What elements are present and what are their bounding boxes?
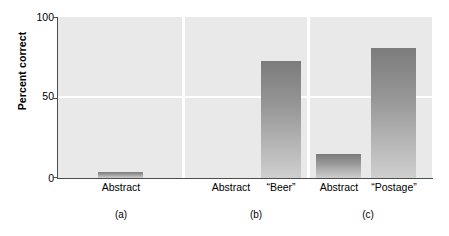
x-tick-c-postage: “Postage” xyxy=(371,181,417,193)
y-tick-label-100: 100 xyxy=(24,12,54,23)
y-tick-mark-100 xyxy=(53,17,57,18)
plot-area xyxy=(58,17,432,178)
panel-divider-a-b xyxy=(182,17,185,178)
bar-c-abstract xyxy=(316,154,361,178)
x-axis-line xyxy=(57,178,433,179)
bar-a-abstract xyxy=(98,172,143,178)
panel-divider-b-c xyxy=(307,17,310,178)
y-axis-tick-labels: 100 50 0 xyxy=(20,0,54,236)
x-axis-tick-labels: Abstract Abstract “Beer” Abstract “Posta… xyxy=(0,181,449,199)
bar-chart-figure: Percent correct 100 50 0 Abstract Abstra… xyxy=(0,0,449,236)
panel-caption-b: (b) xyxy=(250,209,262,220)
y-tick-mark-50 xyxy=(53,98,57,99)
x-tick-b-abstract: Abstract xyxy=(212,181,251,193)
panel-caption-c: (c) xyxy=(362,209,374,220)
x-tick-b-beer: “Beer” xyxy=(266,181,295,193)
bar-c-postage xyxy=(371,48,416,178)
panel-caption-a: (a) xyxy=(115,209,127,220)
bar-b-beer xyxy=(261,61,301,179)
panel-captions: (a) (b) (c) xyxy=(0,209,449,225)
y-tick-label-50: 50 xyxy=(24,91,54,102)
x-tick-a-abstract: Abstract xyxy=(102,181,141,193)
x-tick-c-abstract: Abstract xyxy=(320,181,359,193)
